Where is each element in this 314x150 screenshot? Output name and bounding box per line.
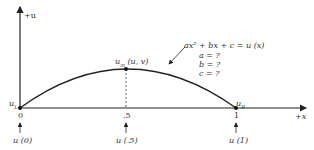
equation-pointer-arrow	[169, 47, 185, 64]
annotation-u05: u (.5)	[116, 137, 138, 145]
annotation-u0: u (0)	[13, 137, 32, 145]
point-left	[18, 106, 22, 110]
x-axis-label: +x	[295, 113, 306, 121]
point-mid-label: um (u, v)	[115, 58, 148, 68]
equation-main: ax² + bx + c = u (x)	[184, 42, 264, 50]
point-right-label: uR	[236, 100, 245, 110]
equation-unknown-a: a = ?	[199, 52, 220, 60]
equation-unknown-c: c = ?	[199, 70, 220, 78]
y-axis-label: +u	[24, 12, 36, 20]
tick-05: .5	[123, 112, 131, 120]
annotation-u1: u (1)	[229, 137, 248, 145]
point-mid	[124, 67, 128, 71]
diagram-canvas	[0, 0, 314, 150]
point-left-label: uL	[9, 100, 17, 110]
tick-1: 1	[234, 112, 239, 120]
equation-unknown-b: b = ?	[199, 61, 220, 69]
tick-0: 0	[18, 112, 23, 120]
